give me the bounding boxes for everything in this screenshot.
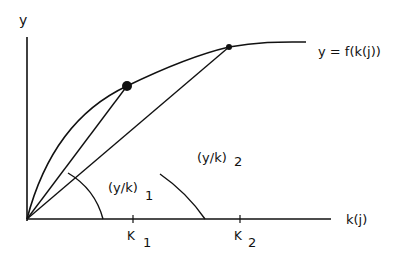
angle-label-2-sub: 2 bbox=[234, 154, 242, 169]
angle-label-1-sub: 1 bbox=[145, 188, 153, 203]
production-function-diagram: y k(j) y = f(k(j)) (y/k) 1 (y/k) 2 K 1 K… bbox=[0, 0, 408, 259]
tick-label-k1-sub: 1 bbox=[143, 235, 151, 250]
x-axis-label: k(j) bbox=[346, 212, 367, 227]
y-axis-label: y bbox=[19, 12, 27, 28]
point-2-dot bbox=[226, 44, 232, 50]
production-curve bbox=[27, 42, 306, 219]
angle-label-1: (y/k) bbox=[108, 180, 138, 195]
angle-label-2: (y/k) bbox=[197, 150, 227, 165]
curve-label: y = f(k(j)) bbox=[318, 44, 381, 59]
point-1-dot bbox=[122, 81, 132, 91]
tick-label-k2-sub: 2 bbox=[248, 235, 256, 250]
ray-to-point-1 bbox=[27, 86, 127, 219]
angle-arc-2 bbox=[160, 174, 205, 219]
tick-label-k1: K bbox=[127, 229, 136, 243]
tick-label-k2: K bbox=[234, 229, 243, 243]
